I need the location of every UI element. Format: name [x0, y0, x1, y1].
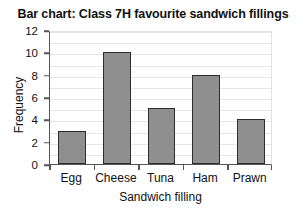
x-tick-mark	[94, 165, 96, 170]
bar-egg	[58, 131, 86, 165]
x-tick-label-tuna: Tuna	[147, 171, 174, 185]
y-tick-label: 0	[32, 159, 38, 171]
bar-cheese	[103, 52, 131, 164]
x-axis: EggCheeseTunaHamPrawn	[49, 171, 272, 187]
y-tick-label: 2	[32, 137, 38, 149]
x-tick-mark	[271, 165, 273, 170]
bar-prawn	[237, 119, 265, 164]
x-tick-label-ham: Ham	[192, 171, 217, 185]
x-tick-label-egg: Egg	[61, 171, 82, 185]
y-tick-label: 4	[32, 114, 38, 126]
x-tick-mark	[49, 165, 51, 170]
bars-layer	[50, 32, 271, 164]
y-axis: 024681012	[0, 31, 44, 165]
y-tick-label: 6	[32, 92, 38, 104]
x-tick-label-prawn: Prawn	[233, 171, 267, 185]
x-tick-mark	[138, 165, 140, 170]
bar-chart-figure: Bar chart: Class 7H favourite sandwich f…	[0, 0, 306, 214]
plot-area	[49, 31, 272, 165]
y-tick-label: 12	[25, 25, 38, 37]
y-tick-label: 10	[25, 47, 38, 59]
bar-tuna	[148, 108, 176, 164]
chart-title: Bar chart: Class 7H favourite sandwich f…	[0, 7, 306, 21]
x-tick-mark	[227, 165, 229, 170]
bar-ham	[192, 75, 220, 164]
x-tick-mark	[183, 165, 185, 170]
x-axis-title: Sandwich filling	[49, 190, 272, 204]
y-tick-label: 8	[32, 70, 38, 82]
x-tick-label-cheese: Cheese	[95, 171, 136, 185]
